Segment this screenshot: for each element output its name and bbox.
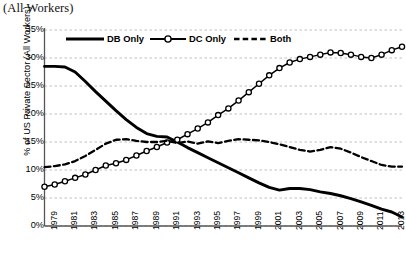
data-point-marker [195,126,200,131]
data-point-marker [62,179,67,184]
data-point-marker [338,50,343,55]
data-series-layer [42,44,405,217]
data-point-marker [134,153,139,158]
data-point-marker [297,57,302,62]
legend-label-both: Both [270,33,291,44]
data-point-marker [307,54,312,59]
data-point-marker [287,60,292,65]
data-point-marker [144,148,149,153]
data-point-marker [93,167,98,172]
data-point-marker [52,182,57,187]
data-point-marker [369,55,374,60]
data-point-marker [246,90,251,95]
data-point-marker [124,157,129,162]
data-point-marker [399,44,404,49]
data-point-marker [389,48,394,53]
data-point-marker [216,113,221,118]
legend-label-dc-only: DC Only [189,33,226,44]
data-point-marker [226,106,231,111]
data-point-marker [154,144,159,149]
data-point-marker [113,161,118,166]
legend-label-db-only: DB Only [107,33,144,44]
data-point-marker [318,52,323,57]
data-point-marker [73,175,78,180]
axis-lines [45,28,403,226]
data-point-marker [236,98,241,103]
data-point-marker [103,163,108,168]
data-point-marker [277,65,282,70]
legend-marker-dc-only [165,36,171,42]
series-line-db-only [45,66,403,217]
series-line-both [45,139,403,167]
data-point-marker [42,184,47,189]
data-point-marker [267,73,272,78]
data-point-marker [205,120,210,125]
legend-symbols [66,36,268,42]
data-point-marker [359,54,364,59]
data-point-marker [328,50,333,55]
data-point-marker [185,132,190,137]
data-point-marker [256,81,261,86]
data-point-marker [379,52,384,57]
chart-container: (All Workers) % of US Private Sector (Al… [0,0,406,275]
data-point-marker [348,52,353,57]
data-point-marker [83,172,88,177]
